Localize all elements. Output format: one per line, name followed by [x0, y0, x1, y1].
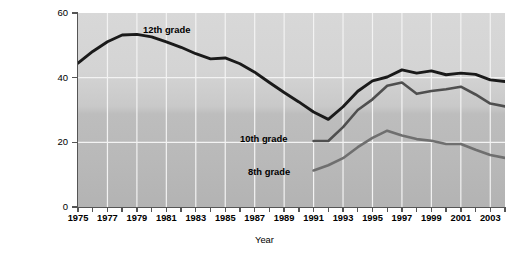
series-line-8th-grade [314, 131, 505, 171]
x-axis-tick [92, 207, 93, 212]
x-axis-tick-label: 2003 [473, 213, 507, 223]
plot-canvas [78, 13, 505, 207]
series-line-12th-grade [78, 34, 505, 119]
series-lines [78, 34, 505, 170]
x-axis-tick [151, 207, 152, 212]
y-axis-tick-label: 60 [46, 7, 68, 18]
y-axis-tick [72, 77, 77, 78]
x-axis-tick [504, 207, 505, 212]
x-axis-tick [77, 207, 78, 212]
x-axis-tick [357, 207, 358, 212]
x-axis-tick [328, 207, 329, 212]
x-axis-tick [210, 207, 211, 212]
x-axis-line [77, 207, 506, 208]
x-axis-tick [431, 207, 432, 212]
series-line-10th-grade [314, 83, 505, 142]
y-axis-tick-label: 20 [46, 136, 68, 147]
x-axis-tick [166, 207, 167, 212]
plot-area [78, 13, 505, 207]
x-axis-tick [372, 207, 373, 212]
x-axis-tick [416, 207, 417, 212]
y-axis-tick-label: 0 [46, 201, 68, 212]
y-axis-tick-label: 40 [46, 72, 68, 83]
x-axis-tick [254, 207, 255, 212]
y-axis-tick [72, 142, 77, 143]
x-axis-tick [445, 207, 446, 212]
x-axis-tick [342, 207, 343, 212]
x-axis-tick [107, 207, 108, 212]
x-axis-tick [283, 207, 284, 212]
x-axis-tick [269, 207, 270, 212]
x-axis-tick [401, 207, 402, 212]
y-axis-tick [72, 12, 77, 13]
y-axis-line [77, 12, 78, 208]
x-axis-tick [180, 207, 181, 212]
x-axis-tick [121, 207, 122, 212]
x-axis-tick [298, 207, 299, 212]
x-axis-title: Year [255, 234, 274, 245]
x-axis-tick [387, 207, 388, 212]
series-label-8th-grade: 8th grade [248, 166, 290, 177]
chart-figure: 0204060 19751977197919811983198519871989… [0, 0, 529, 259]
series-label-10th-grade: 10th grade [240, 133, 287, 144]
y-axis-tick [72, 206, 77, 207]
x-axis-tick [136, 207, 137, 212]
x-axis-tick [475, 207, 476, 212]
x-axis-tick [460, 207, 461, 212]
x-axis-tick [225, 207, 226, 212]
series-label-12th-grade: 12th grade [143, 24, 190, 35]
x-axis-tick [195, 207, 196, 212]
gridlines [78, 13, 505, 207]
x-axis-tick [313, 207, 314, 212]
x-axis-tick [490, 207, 491, 212]
x-axis-tick [239, 207, 240, 212]
